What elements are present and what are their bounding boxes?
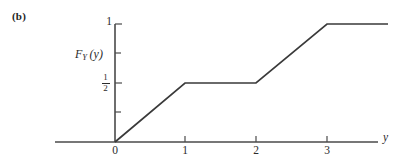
y-tick-label-one-half: 1 2 — [99, 73, 112, 93]
fraction-denominator: 2 — [99, 84, 112, 93]
x-tick-label-3: 3 — [318, 144, 336, 156]
fraction-numerator: 1 — [99, 73, 112, 82]
cdf-plot-svg — [0, 0, 403, 162]
y-axis-label: FY(y) — [75, 47, 103, 62]
x-axis-label: y — [383, 131, 388, 143]
x-tick-label-1: 1 — [176, 144, 194, 156]
y-axis-label-argument: (y) — [90, 47, 103, 61]
x-tick-label-2: 2 — [247, 144, 265, 156]
y-tick-label-1: 1 — [100, 15, 112, 27]
y-axis-label-subscript: Y — [82, 52, 87, 62]
cdf-curve — [115, 24, 388, 142]
x-tick-label-0: 0 — [106, 144, 124, 156]
figure-container: (b) 1 1 2 FY(y) y 0 1 2 3 — [0, 0, 403, 162]
